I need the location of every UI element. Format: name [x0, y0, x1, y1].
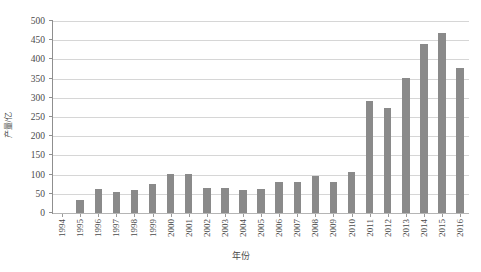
x-axis-tick-mark [460, 214, 461, 217]
y-axis-tick-500: 500 [0, 14, 53, 28]
bar-2004[interactable] [239, 190, 246, 213]
x-axis-tick-label: 2000 [166, 219, 176, 237]
x-axis-tick-mark [225, 214, 226, 217]
bar-1997[interactable] [113, 192, 120, 213]
x-axis-tick-label: 1998 [129, 219, 139, 237]
bar-2012[interactable] [384, 108, 391, 213]
bar-1999[interactable] [149, 184, 156, 213]
x-axis-tick-label: 2011 [365, 219, 375, 237]
x-axis-tick: 2011 [361, 214, 379, 250]
bar-2011[interactable] [366, 101, 373, 213]
bar-2006[interactable] [275, 182, 282, 213]
x-axis-tick: 2001 [180, 214, 198, 250]
bar-slot [361, 21, 379, 213]
x-axis-tick: 1999 [143, 214, 161, 250]
plot-area [53, 21, 469, 213]
y-axis-ticks: 050100150200250300350400450500 [0, 0, 53, 214]
bars-container [53, 21, 469, 213]
x-axis-tick-mark [352, 214, 353, 217]
x-axis-tick-mark [80, 214, 81, 217]
x-axis-tick-mark [62, 214, 63, 217]
x-axis-tick: 2015 [433, 214, 451, 250]
x-axis-tick-label: 1999 [148, 219, 158, 237]
bar-slot [162, 21, 180, 213]
x-axis-tick-label: 2014 [419, 219, 429, 237]
x-axis-tick: 2013 [397, 214, 415, 250]
x-axis-tick-label: 2010 [347, 219, 357, 237]
bar-chart: 产量/亿 050100150200250300350400450500 1994… [0, 0, 481, 272]
x-axis-tick-mark [171, 214, 172, 217]
x-axis-tick: 2008 [306, 214, 324, 250]
x-axis-tick-mark [261, 214, 262, 217]
bar-slot [198, 21, 216, 213]
bar-2015[interactable] [438, 33, 445, 213]
bar-1998[interactable] [131, 190, 138, 213]
x-axis-tick-label: 1996 [93, 219, 103, 237]
y-axis-tick-label: 150 [31, 148, 45, 162]
x-axis-tick-label: 2005 [256, 219, 266, 237]
bar-slot [107, 21, 125, 213]
bar-2009[interactable] [330, 182, 337, 213]
bar-slot [288, 21, 306, 213]
y-axis-tick-300: 300 [0, 91, 53, 105]
x-axis-tick: 2002 [198, 214, 216, 250]
bar-slot [433, 21, 451, 213]
x-axis-tick: 1995 [71, 214, 89, 250]
x-axis-tick-mark [153, 214, 154, 217]
x-axis-tick-label: 2009 [328, 219, 338, 237]
bar-2010[interactable] [348, 172, 355, 213]
x-axis-tick-mark [189, 214, 190, 217]
x-axis-tick-mark [207, 214, 208, 217]
x-axis-tick: 1998 [125, 214, 143, 250]
y-axis-tick-0: 0 [0, 206, 53, 220]
bar-slot [306, 21, 324, 213]
bar-slot [216, 21, 234, 213]
x-axis-tick-label: 2004 [238, 219, 248, 237]
y-axis-tick-label: 500 [31, 14, 45, 28]
y-axis-tick-label: 0 [40, 206, 45, 220]
bar-1995[interactable] [76, 200, 83, 213]
bar-2003[interactable] [221, 188, 228, 213]
x-axis-tick-label: 2013 [401, 219, 411, 237]
bar-slot [324, 21, 342, 213]
x-axis-tick-label: 2016 [455, 219, 465, 237]
bar-2001[interactable] [185, 174, 192, 213]
bar-1996[interactable] [95, 189, 102, 213]
bar-2005[interactable] [257, 189, 264, 213]
x-axis-tick-mark [134, 214, 135, 217]
x-axis-tick-mark [243, 214, 244, 217]
y-axis-tick-150: 150 [0, 148, 53, 162]
x-axis-tick: 2010 [343, 214, 361, 250]
x-axis-tick: 2004 [234, 214, 252, 250]
x-axis-tick-label: 1997 [111, 219, 121, 237]
bar-2013[interactable] [402, 78, 409, 213]
y-axis-tick-200: 200 [0, 129, 53, 143]
bar-2002[interactable] [203, 188, 210, 213]
x-axis-tick: 2016 [451, 214, 469, 250]
x-axis-tick-mark [424, 214, 425, 217]
bar-slot [397, 21, 415, 213]
x-axis-tick: 1997 [107, 214, 125, 250]
bar-2000[interactable] [167, 174, 174, 213]
x-axis-ticks: 1994199519961997199819992000200120022003… [53, 214, 469, 250]
bar-2014[interactable] [420, 44, 427, 213]
x-axis-tick-mark [333, 214, 334, 217]
bar-slot [234, 21, 252, 213]
y-axis-tick-250: 250 [0, 110, 53, 124]
y-axis-tick-label: 200 [31, 129, 45, 143]
bar-2007[interactable] [294, 182, 301, 213]
y-axis-tick-450: 450 [0, 33, 53, 47]
x-axis-tick-mark [370, 214, 371, 217]
x-axis-tick-label: 2006 [274, 219, 284, 237]
bar-2008[interactable] [312, 176, 319, 213]
bar-slot [180, 21, 198, 213]
x-axis-tick: 2000 [162, 214, 180, 250]
x-axis-tick-mark [442, 214, 443, 217]
bar-slot [415, 21, 433, 213]
x-axis-tick-label: 1995 [75, 219, 85, 237]
y-axis-tick-label: 450 [31, 33, 45, 47]
x-axis-tick-label: 2002 [202, 219, 212, 237]
y-axis-tick-50: 50 [0, 187, 53, 201]
x-axis-tick-label: 2015 [437, 219, 447, 237]
bar-2016[interactable] [456, 68, 463, 213]
